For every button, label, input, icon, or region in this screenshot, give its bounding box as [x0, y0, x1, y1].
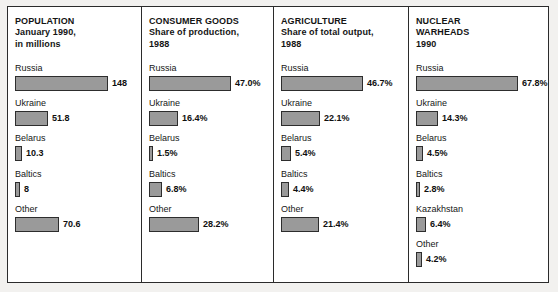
- bar-category-label: Other: [149, 203, 267, 215]
- bar-value-label: 21.4%: [323, 217, 349, 232]
- bar-value-label: 5.4%: [295, 146, 316, 161]
- bar-value-label: 6.8%: [166, 182, 187, 197]
- panel-title-population: POPULATION January 1990, in millions: [15, 16, 135, 62]
- bar-rows-agriculture: Russia 46.7% Ukraine 22.1% Belarus: [281, 62, 402, 232]
- bar-rect: [416, 217, 426, 232]
- bar-line: 8: [15, 182, 135, 197]
- panel-agriculture: AGRICULTURE Share of total output, 1988 …: [273, 7, 408, 282]
- panel-title-agriculture: AGRICULTURE Share of total output, 1988: [281, 16, 402, 62]
- bar-value-label: 28.2%: [203, 217, 229, 232]
- bar-rect: [416, 76, 518, 91]
- bar-row: Other 21.4%: [281, 203, 402, 232]
- bar-category-label: Belarus: [15, 132, 135, 144]
- bar-category-label: Ukraine: [149, 97, 267, 109]
- bar-rect: [149, 76, 231, 91]
- chart-figure: POPULATION January 1990, in millions Rus…: [0, 0, 558, 292]
- bar-rect: [15, 76, 108, 91]
- chart-frame: POPULATION January 1990, in millions Rus…: [7, 6, 549, 283]
- bar-category-label: Ukraine: [281, 97, 402, 109]
- bar-row: Russia 47.0%: [149, 62, 267, 91]
- bar-rows-population: Russia 148 Ukraine 51.8 Belarus: [15, 62, 135, 232]
- bar-category-label: Belarus: [281, 132, 402, 144]
- panel-subtitle-line: 1988: [281, 39, 402, 50]
- bar-category-label: Baltics: [281, 168, 402, 180]
- panel-subtitle-line: Share of total output,: [281, 27, 402, 38]
- bar-row: Baltics 4.4%: [281, 168, 402, 197]
- panel-population: POPULATION January 1990, in millions Rus…: [8, 7, 141, 282]
- panel-title-line: POPULATION: [15, 16, 135, 27]
- bar-value-label: 4.5%: [427, 146, 448, 161]
- bar-rect: [149, 217, 199, 232]
- bar-row: Ukraine 16.4%: [149, 97, 267, 126]
- bar-row: Russia 148: [15, 62, 135, 91]
- bar-row: Ukraine 14.3%: [416, 97, 544, 126]
- bar-row: Baltics 2.8%: [416, 168, 544, 197]
- bar-category-label: Other: [416, 238, 544, 250]
- panel-subtitle-line: Share of production,: [149, 27, 267, 38]
- bar-value-label: 51.8: [52, 111, 70, 126]
- panel-title-line: CONSUMER GOODS: [149, 16, 267, 27]
- bar-value-label: 14.3%: [442, 111, 468, 126]
- bar-value-label: 46.7%: [367, 76, 393, 91]
- bar-row: Ukraine 22.1%: [281, 97, 402, 126]
- bar-line: 22.1%: [281, 111, 402, 126]
- bar-category-label: Russia: [15, 62, 135, 74]
- bar-rect: [149, 146, 153, 161]
- panel-title-line: AGRICULTURE: [281, 16, 402, 27]
- bar-row: Other 70.6: [15, 203, 135, 232]
- bar-category-label: Baltics: [416, 168, 544, 180]
- panel-subtitle-line: in millions: [15, 39, 135, 50]
- bar-line: 10.3: [15, 146, 135, 161]
- bar-value-label: 70.6: [63, 217, 81, 232]
- bar-rect: [15, 217, 59, 232]
- bar-rect: [416, 111, 438, 126]
- panel-title-consumer-goods: CONSUMER GOODS Share of production, 1988: [149, 16, 267, 62]
- bar-rect: [281, 146, 291, 161]
- bar-category-label: Kazakhstan: [416, 203, 544, 215]
- bar-row: Belarus 5.4%: [281, 132, 402, 161]
- panel-title-line: NUCLEAR: [416, 16, 544, 27]
- bar-row: Kazakhstan 6.4%: [416, 203, 544, 232]
- bar-row: Other 28.2%: [149, 203, 267, 232]
- bar-line: 51.8: [15, 111, 135, 126]
- bar-line: 16.4%: [149, 111, 267, 126]
- bar-row: Russia 46.7%: [281, 62, 402, 91]
- bar-line: 1.5%: [149, 146, 267, 161]
- bar-value-label: 8: [24, 182, 29, 197]
- bar-value-label: 47.0%: [235, 76, 261, 91]
- bar-category-label: Russia: [281, 62, 402, 74]
- bar-value-label: 4.4%: [293, 182, 314, 197]
- bar-row: Baltics 6.8%: [149, 168, 267, 197]
- bar-category-label: Other: [281, 203, 402, 215]
- bar-rect: [416, 146, 423, 161]
- bar-rect: [15, 182, 20, 197]
- bar-line: 67.8%: [416, 76, 544, 91]
- bar-row: Belarus 10.3: [15, 132, 135, 161]
- bar-value-label: 148: [112, 76, 127, 91]
- bar-rows-consumer-goods: Russia 47.0% Ukraine 16.4% Belarus: [149, 62, 267, 232]
- bar-line: 4.4%: [281, 182, 402, 197]
- bar-line: 2.8%: [416, 182, 544, 197]
- bar-rect: [281, 217, 319, 232]
- bar-row: Other 4.2%: [416, 238, 544, 267]
- bar-value-label: 67.8%: [522, 76, 548, 91]
- panel-title-line: WARHEADS: [416, 27, 544, 38]
- bar-category-label: Baltics: [149, 168, 267, 180]
- bar-rect: [149, 111, 178, 126]
- panel-nuclear-warheads: NUCLEAR WARHEADS 1990 Russia 67.8% Ukrai…: [408, 7, 550, 282]
- bar-rect: [149, 182, 162, 197]
- bar-row: Ukraine 51.8: [15, 97, 135, 126]
- bar-line: 47.0%: [149, 76, 267, 91]
- panel-subtitle-line: 1988: [149, 39, 267, 50]
- bar-value-label: 16.4%: [182, 111, 208, 126]
- bar-value-label: 6.4%: [430, 217, 451, 232]
- bar-line: 70.6: [15, 217, 135, 232]
- bar-line: 5.4%: [281, 146, 402, 161]
- bar-value-label: 1.5%: [157, 146, 178, 161]
- bar-category-label: Ukraine: [416, 97, 544, 109]
- bar-rect: [416, 182, 420, 197]
- bar-category-label: Belarus: [416, 132, 544, 144]
- panel-subtitle-line: January 1990,: [15, 27, 135, 38]
- bar-rect: [281, 182, 289, 197]
- bar-line: 148: [15, 76, 135, 91]
